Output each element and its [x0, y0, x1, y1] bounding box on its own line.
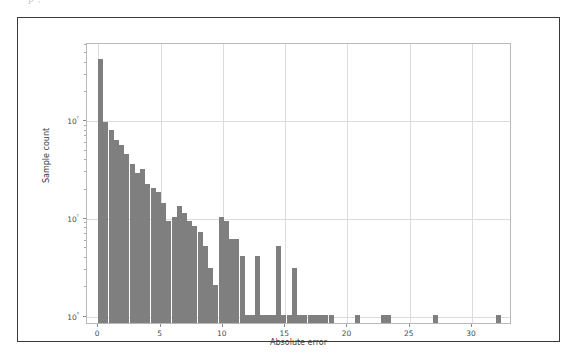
y-minor-tick-mark: [84, 286, 86, 287]
histogram-bar: [240, 256, 245, 323]
y-minor-tick-mark: [84, 150, 86, 151]
y-tick-label: 10²: [53, 115, 79, 126]
y-minor-tick-mark: [84, 125, 86, 126]
histogram-bar: [355, 315, 360, 323]
x-tick-mark: [160, 324, 161, 327]
x-tick-label: 15: [269, 329, 299, 338]
y-minor-tick-mark: [84, 91, 86, 92]
y-minor-tick-mark: [84, 130, 86, 131]
y-minor-tick-mark: [84, 240, 86, 241]
y-tick-mark: [83, 316, 86, 317]
document-text-sliver-label: p ,: [28, 0, 41, 4]
y-minor-tick-mark: [84, 171, 86, 172]
x-tick-label: 25: [394, 329, 424, 338]
x-tick-mark: [222, 324, 223, 327]
document-text-sliver: p ,: [0, 0, 578, 12]
y-tick-mark: [83, 120, 86, 121]
y-minor-tick-mark: [84, 62, 86, 63]
plot-area: [86, 43, 511, 324]
y-minor-tick-mark: [84, 222, 86, 223]
x-tick-label: 0: [82, 329, 112, 338]
y-tick-mark: [83, 218, 86, 219]
y-minor-tick-mark: [84, 44, 86, 45]
y-tick-label: 10⁰: [53, 311, 79, 322]
y-minor-tick-mark: [84, 74, 86, 75]
y-axis-label: Sample count: [42, 128, 51, 183]
x-tick-mark: [97, 324, 98, 327]
x-gridline: [472, 44, 473, 323]
x-tick-mark: [346, 324, 347, 327]
histogram-bar: [329, 315, 334, 323]
y-tick-label: 10¹: [53, 213, 79, 224]
x-tick-label: 10: [207, 329, 237, 338]
y-gridline: [87, 121, 510, 122]
x-tick-mark: [471, 324, 472, 327]
histogram-bar: [276, 246, 281, 323]
x-tick-label: 20: [331, 329, 361, 338]
y-minor-tick-mark: [84, 257, 86, 258]
x-gridline: [347, 44, 348, 323]
y-minor-tick-mark: [84, 233, 86, 234]
figure-frame: Sample count Absolute error 051015202530…: [17, 17, 560, 342]
y-minor-tick-mark: [84, 189, 86, 190]
histogram-bar: [255, 256, 260, 323]
histogram-bar: [386, 315, 391, 323]
plot-inner: [87, 44, 510, 323]
histogram-bar: [496, 315, 501, 323]
y-minor-tick-mark: [84, 142, 86, 143]
x-axis-label: Absolute error: [86, 338, 511, 347]
y-minor-tick-mark: [84, 135, 86, 136]
x-tick-mark: [409, 324, 410, 327]
x-gridline: [285, 44, 286, 323]
y-minor-tick-mark: [84, 269, 86, 270]
x-gridline: [410, 44, 411, 323]
y-minor-tick-mark: [84, 52, 86, 53]
y-minor-tick-mark: [84, 247, 86, 248]
histogram-bar: [433, 315, 438, 323]
y-minor-tick-mark: [84, 227, 86, 228]
x-tick-label: 5: [145, 329, 175, 338]
x-tick-mark: [284, 324, 285, 327]
y-minor-tick-mark: [84, 159, 86, 160]
x-tick-label: 30: [456, 329, 486, 338]
